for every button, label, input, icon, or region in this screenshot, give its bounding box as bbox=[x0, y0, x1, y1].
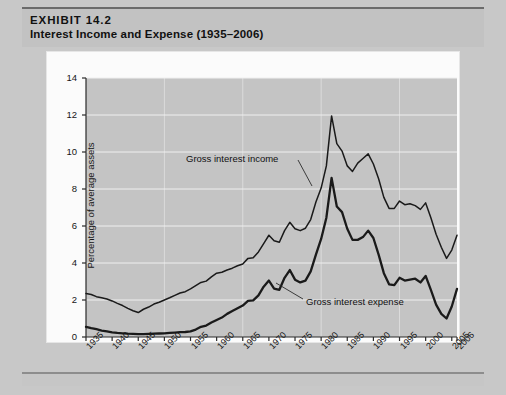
y-tick-label: 6 bbox=[55, 220, 77, 231]
exhibit-figure: EXHIBIT 14.2 Interest Income and Expense… bbox=[0, 0, 506, 395]
y-tick-label: 12 bbox=[55, 109, 77, 120]
bottom-band bbox=[22, 374, 484, 386]
annotation-gross-interest-income: Gross interest income bbox=[186, 153, 278, 164]
y-tick-label: 10 bbox=[55, 146, 77, 157]
y-tick-label: 8 bbox=[55, 183, 77, 194]
annotation-gross-interest-expense: Gross interest expense bbox=[306, 296, 404, 307]
y-tick-label: 0 bbox=[55, 331, 77, 342]
y-tick-label: 2 bbox=[55, 294, 77, 305]
y-tick-label: 4 bbox=[55, 257, 77, 268]
y-tick-label: 14 bbox=[55, 72, 77, 83]
y-axis-title: Percentage of average assets bbox=[85, 125, 96, 285]
